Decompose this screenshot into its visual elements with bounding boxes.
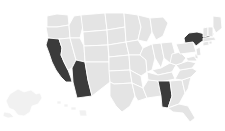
us-map-svg xyxy=(0,0,225,131)
state-nebraska[interactable] xyxy=(108,42,129,57)
state-hawaii-oahu[interactable] xyxy=(64,104,68,107)
state-kansas[interactable] xyxy=(109,55,130,71)
state-rhode-island[interactable] xyxy=(209,41,212,44)
state-pennsylvania[interactable] xyxy=(176,42,196,54)
state-hawaii-maui[interactable] xyxy=(71,107,76,110)
state-washington[interactable] xyxy=(47,14,69,27)
state-wyoming[interactable] xyxy=(83,30,108,46)
us-map-container xyxy=(0,0,225,131)
state-hawaii-kauai[interactable] xyxy=(57,101,61,104)
state-oklahoma[interactable] xyxy=(109,70,132,84)
state-new-jersey[interactable] xyxy=(196,47,201,56)
state-vermont[interactable] xyxy=(203,27,208,37)
state-new-hampshire[interactable] xyxy=(208,27,213,37)
state-montana[interactable] xyxy=(81,13,107,32)
state-oregon[interactable] xyxy=(46,25,70,39)
state-colorado[interactable] xyxy=(84,45,109,62)
state-hawaii-big-island[interactable] xyxy=(79,110,87,116)
